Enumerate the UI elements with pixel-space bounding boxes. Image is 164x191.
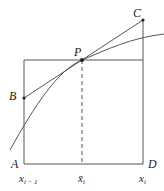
label-x-bar-i: x̄i [77, 172, 85, 186]
label-sub-i-right: i [144, 178, 146, 186]
diagram-canvas: C P B A D xi − 1 x̄i xi [0, 0, 164, 191]
label-p: P [73, 45, 82, 59]
label-sub-i-mid: i [83, 178, 85, 186]
point-c-marker [141, 18, 144, 21]
label-x-i-minus-1: xi − 1 [18, 172, 38, 186]
label-c: C [133, 6, 142, 20]
label-a: A [10, 157, 19, 171]
label-x-i: xi [138, 172, 146, 186]
label-d: D [147, 157, 157, 171]
point-b-marker [22, 96, 25, 99]
label-b: B [9, 89, 17, 103]
label-sub-i-minus-1: i − 1 [24, 178, 38, 186]
